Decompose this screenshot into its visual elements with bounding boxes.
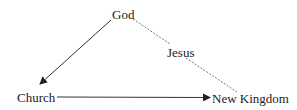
edge-god-to-church bbox=[40, 20, 111, 84]
node-church: Church bbox=[17, 91, 55, 104]
node-new-kingdom: New Kingdom bbox=[212, 92, 289, 105]
edge-label-jesus: Jesus bbox=[167, 46, 194, 59]
edge-god-to-jesus-dashed bbox=[133, 19, 170, 44]
node-god: God bbox=[112, 8, 134, 21]
diagram-canvas: God Jesus Church New Kingdom bbox=[0, 0, 297, 110]
edge-church-to-new-kingdom bbox=[57, 97, 210, 98]
edge-jesus-to-new-kingdom-dashed bbox=[186, 58, 237, 92]
